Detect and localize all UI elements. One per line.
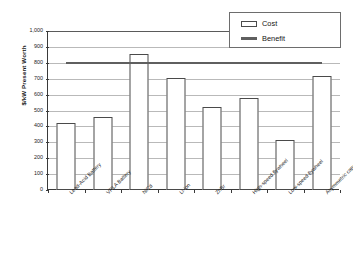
y-axis-tick-label: 0	[3, 187, 43, 192]
plot-area	[47, 31, 339, 190]
y-axis-tick-label: 100	[3, 171, 43, 176]
bar-cost[interactable]	[93, 117, 112, 190]
y-axis-tick-label: 1,000	[3, 28, 43, 33]
bar-cost[interactable]	[166, 78, 185, 190]
bar-slot	[304, 31, 341, 190]
y-axis-tick-label: 200	[3, 155, 43, 160]
x-axis-label: Asymmetric capacitor	[324, 191, 328, 195]
x-axis-label: NiCd	[141, 191, 145, 195]
bar-slot	[48, 31, 85, 190]
legend-item-cost: Cost	[230, 16, 340, 31]
y-axis-tick-label: 400	[3, 123, 43, 128]
x-axis-tick-mark	[340, 190, 341, 193]
bar-cost[interactable]	[57, 123, 76, 190]
bar-slot	[194, 31, 231, 190]
chart-container: $/kW Present Worth 1,0009008007006005004…	[0, 0, 353, 257]
x-axis-labels-group: Lead-Acid BatteryVRLA BatteryNiCdLi-ionZ…	[47, 191, 339, 257]
bar-slot	[158, 31, 195, 190]
y-axis-tick-label: 800	[3, 60, 43, 65]
x-axis-label: Lead-Acid Battery	[68, 191, 72, 195]
x-axis-label: Low-speed flywheel	[287, 191, 291, 195]
benefit-line	[66, 62, 322, 64]
x-axis-label: Li-ion	[178, 191, 182, 195]
bar-slot	[85, 31, 122, 190]
bar-cost[interactable]	[130, 54, 149, 190]
bar-cost[interactable]	[239, 98, 258, 190]
legend-item-benefit: Benefit	[230, 31, 340, 46]
x-axis-label: VRLA Battery	[105, 191, 109, 195]
legend-label-benefit: Benefit	[262, 35, 285, 42]
legend-swatch-benefit-icon	[241, 37, 257, 39]
chart-legend: Cost Benefit	[229, 12, 341, 48]
y-axis-tick-label: 500	[3, 108, 43, 113]
x-axis-label: High-speed flywheel	[251, 191, 255, 195]
bar-cost[interactable]	[312, 76, 331, 190]
x-axis-label: ZnBr	[214, 191, 218, 195]
legend-label-cost: Cost	[262, 20, 277, 27]
bar-slot	[267, 31, 304, 190]
y-axis-tick-label: 700	[3, 76, 43, 81]
bar-cost[interactable]	[203, 107, 222, 190]
legend-swatch-cost-icon	[241, 21, 257, 27]
bar-slot	[231, 31, 268, 190]
y-axis-tick-label: 900	[3, 44, 43, 49]
y-axis-tick-label: 300	[3, 139, 43, 144]
y-axis-tick-label: 600	[3, 92, 43, 97]
bar-slot	[121, 31, 158, 190]
